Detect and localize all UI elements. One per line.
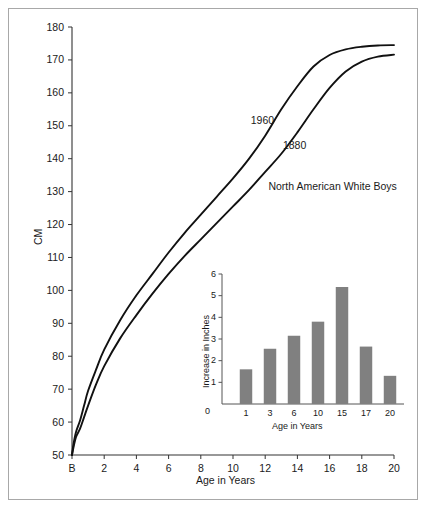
- inset-x-tick-label: 6: [282, 408, 306, 418]
- main-x-tick-label: 12: [251, 462, 279, 474]
- inset-y-tick-marks: [219, 274, 223, 382]
- main-x-tick-label: 18: [348, 462, 376, 474]
- main-x-tick-label: B: [58, 462, 86, 474]
- inset-origin-label: 0: [205, 406, 210, 416]
- inset-x-tick-label: 1: [234, 408, 258, 418]
- main-y-tick-label: 70: [36, 383, 64, 395]
- main-x-tick-label: 10: [219, 462, 247, 474]
- main-y-axis-title: CM: [32, 229, 44, 245]
- main-x-tick-marks: [72, 455, 394, 459]
- inset-y-tick-label: 5: [196, 290, 216, 300]
- inset-bar: [264, 349, 276, 404]
- inset-y-tick-label: 6: [196, 269, 216, 279]
- inset-bar: [336, 287, 348, 404]
- main-y-tick-label: 160: [36, 86, 64, 98]
- main-y-tick-label: 80: [36, 350, 64, 362]
- main-y-tick-label: 170: [36, 53, 64, 65]
- main-y-tick-marks: [68, 27, 72, 455]
- curve-annotation: 1960: [251, 114, 274, 126]
- chart-image: 5060708090100110120130140150160170180 B2…: [0, 0, 426, 509]
- main-y-tick-label: 100: [36, 284, 64, 296]
- inset-x-tick-label: 15: [330, 408, 354, 418]
- main-y-tick-label: 140: [36, 152, 64, 164]
- inset-bar: [288, 336, 300, 404]
- main-x-axis-title: Age in Years: [196, 474, 255, 486]
- main-x-tick-label: 2: [90, 462, 118, 474]
- inset-x-tick-label: 17: [354, 408, 378, 418]
- main-x-tick-label: 6: [155, 462, 183, 474]
- inset-y-axis-title: Increase in Inches: [201, 315, 211, 388]
- main-y-tick-label: 130: [36, 185, 64, 197]
- curve-annotation: 1880: [283, 139, 306, 151]
- main-x-tick-label: 8: [187, 462, 215, 474]
- main-y-tick-label: 60: [36, 416, 64, 428]
- main-x-tick-label: 14: [283, 462, 311, 474]
- main-y-tick-label: 150: [36, 119, 64, 131]
- inset-bar: [312, 322, 324, 404]
- curve-annotation: North American White Boys: [268, 180, 396, 192]
- inset-x-tick-label: 3: [258, 408, 282, 418]
- inset-bar: [384, 376, 396, 404]
- main-y-tick-label: 110: [36, 251, 64, 263]
- main-x-tick-label: 16: [316, 462, 344, 474]
- main-y-tick-label: 180: [36, 21, 64, 33]
- inset-x-tick-label: 20: [378, 408, 402, 418]
- inset-x-tick-label: 10: [306, 408, 330, 418]
- main-y-tick-label: 50: [36, 449, 64, 461]
- inset-bar: [240, 369, 252, 404]
- inset-bar-group: [240, 287, 396, 404]
- main-x-tick-label: 20: [380, 462, 408, 474]
- main-x-tick-label: 4: [122, 462, 150, 474]
- inset-x-axis-title: Age in Years: [272, 421, 323, 431]
- main-y-tick-label: 90: [36, 317, 64, 329]
- inset-axes: [219, 274, 405, 404]
- inset-bar: [360, 347, 372, 404]
